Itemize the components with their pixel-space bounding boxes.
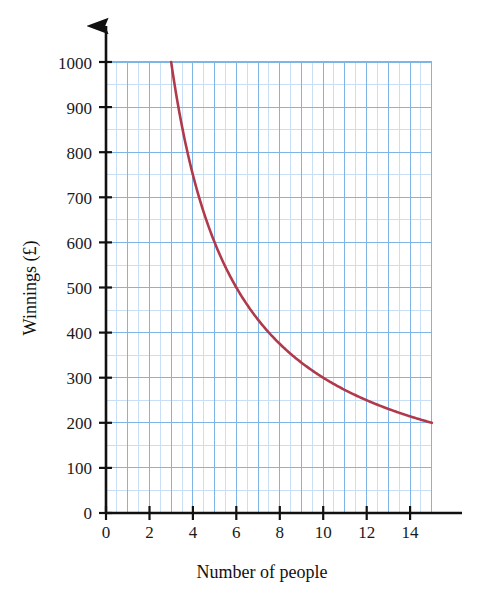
- y-tick-label-0: 0: [84, 504, 93, 523]
- x-tick-label-12: 12: [358, 523, 375, 542]
- chart-page: 0 100 200 300 400 500 600 700 800 900 10…: [0, 0, 485, 614]
- x-tick-label-8: 8: [276, 523, 285, 542]
- y-tick-label-200: 200: [67, 414, 93, 433]
- x-tick-label-6: 6: [232, 523, 241, 542]
- y-tick-label-1000: 1000: [58, 54, 92, 73]
- y-tick-label-600: 600: [67, 234, 93, 253]
- y-tick-label-900: 900: [67, 99, 93, 118]
- y-tick-label-500: 500: [67, 279, 93, 298]
- y-tick-label-100: 100: [67, 459, 93, 478]
- y-tick-label-800: 800: [67, 144, 93, 163]
- x-axis-title: Number of people: [197, 562, 328, 582]
- y-tick-label-400: 400: [67, 324, 93, 343]
- y-axis-title: Winnings (£): [20, 241, 41, 336]
- x-tick-label-10: 10: [315, 523, 332, 542]
- x-tick-label-0: 0: [102, 523, 111, 542]
- winnings-vs-people-chart: 0 100 200 300 400 500 600 700 800 900 10…: [0, 0, 485, 614]
- chart-background: [0, 0, 485, 614]
- x-tick-label-2: 2: [145, 523, 154, 542]
- y-tick-label-300: 300: [67, 369, 93, 388]
- y-tick-label-700: 700: [67, 189, 93, 208]
- x-tick-label-4: 4: [189, 523, 198, 542]
- x-tick-label-14: 14: [402, 523, 420, 542]
